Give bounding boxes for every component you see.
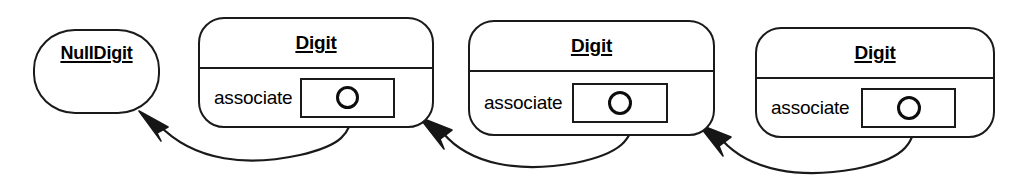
link-end-slot-1[interactable]: [300, 78, 395, 118]
node-digit-2-title-compartment: Digit: [470, 22, 713, 72]
link-circle-icon-2: [608, 91, 632, 115]
diagram-canvas: NullDigit Digit associate Digit associat…: [0, 0, 1017, 192]
node-digit-1-attribute-compartment: associate: [200, 69, 432, 126]
arrowhead-1: [139, 111, 168, 141]
link-circle-icon-3: [897, 96, 921, 120]
node-nulldigit-title: NullDigit: [35, 43, 158, 64]
node-nulldigit[interactable]: NullDigit: [33, 29, 160, 114]
attribute-label-associate-3: associate: [771, 97, 849, 119]
link-end-slot-3[interactable]: [861, 88, 956, 128]
node-digit-3-title: Digit: [854, 42, 895, 64]
node-digit-1-title-compartment: Digit: [200, 19, 432, 69]
node-digit-3-title-compartment: Digit: [757, 29, 993, 79]
node-digit-2-attribute-compartment: associate: [470, 72, 713, 134]
node-digit-2[interactable]: Digit associate: [468, 20, 715, 136]
node-digit-2-title: Digit: [571, 35, 612, 57]
node-digit-3-attribute-compartment: associate: [757, 79, 993, 136]
node-digit-1-title: Digit: [295, 32, 336, 54]
node-digit-3[interactable]: Digit associate: [755, 27, 995, 138]
attribute-label-associate-2: associate: [484, 92, 562, 114]
link-circle-icon-1: [336, 86, 359, 109]
link-end-slot-2[interactable]: [572, 83, 668, 123]
attribute-label-associate-1: associate: [214, 87, 292, 109]
node-digit-1[interactable]: Digit associate: [198, 17, 434, 128]
